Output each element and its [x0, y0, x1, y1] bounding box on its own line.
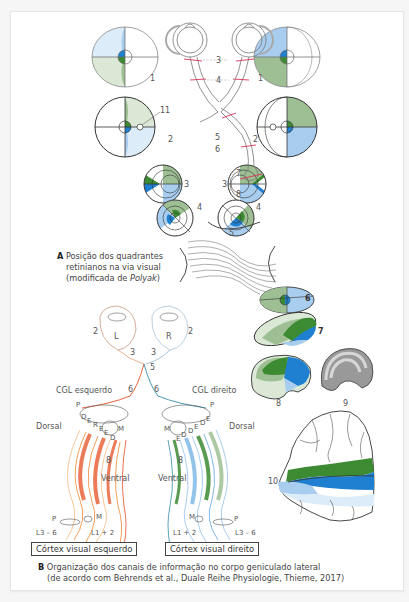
field-8-lgn: [251, 355, 310, 399]
panel-b-letter: B: [38, 562, 44, 572]
svg-text:6: 6: [215, 145, 220, 154]
svg-text:M: M: [96, 513, 102, 521]
svg-text:M: M: [164, 425, 170, 433]
svg-text:P: P: [76, 401, 80, 409]
svg-text:10: 10: [268, 477, 278, 486]
field-1-right: [254, 27, 320, 87]
svg-text:P: P: [52, 515, 56, 523]
svg-text:7: 7: [236, 169, 241, 178]
field-10-occipital-cortex: [278, 411, 374, 521]
svg-text:E: E: [99, 425, 103, 433]
field-1-left: [92, 27, 158, 87]
cortex-layer-markers: [60, 516, 233, 525]
svg-text:4: 4: [256, 203, 261, 212]
right-visual-cortex-box: Córtex visual direito: [165, 542, 259, 556]
svg-text:3: 3: [130, 348, 135, 357]
svg-text:D: D: [200, 419, 205, 427]
field-4-right: [218, 200, 255, 239]
svg-text:D: D: [81, 413, 86, 421]
panel-b-caption-line1: Organização dos canais de informação no …: [47, 562, 320, 572]
svg-text:6: 6: [128, 385, 133, 394]
svg-text:1: 1: [258, 74, 263, 83]
field-2-left: [95, 97, 160, 157]
svg-text:E: E: [176, 435, 180, 443]
svg-text:R: R: [166, 332, 172, 341]
field-9-lgn-layers: [321, 349, 373, 391]
panel-a-caption-line2: retinianos na via visual: [57, 262, 163, 273]
svg-text:4: 4: [197, 203, 202, 212]
svg-text:3: 3: [184, 180, 189, 189]
panel-b-caption: B Organização dos canais de informação n…: [38, 562, 344, 584]
svg-text:3: 3: [151, 348, 156, 357]
svg-text:3: 3: [216, 56, 221, 65]
svg-text:9: 9: [343, 399, 348, 408]
svg-text:4: 4: [216, 76, 221, 85]
panel-b-caption-line2: (de acordo com Behrends et al., Duale Re…: [38, 573, 344, 584]
svg-text:6: 6: [305, 294, 311, 303]
svg-text:1: 1: [150, 74, 155, 83]
svg-text:8: 8: [276, 399, 281, 408]
svg-text:2: 2: [93, 327, 98, 336]
svg-text:E: E: [206, 415, 210, 423]
svg-text:11: 11: [160, 106, 170, 115]
svg-text:D: D: [188, 427, 193, 435]
svg-text:CGL direito: CGL direito: [192, 386, 236, 395]
svg-text:L3 – 6: L3 – 6: [235, 529, 256, 537]
svg-text:8: 8: [178, 456, 183, 465]
svg-text:5: 5: [229, 229, 234, 238]
svg-text:L: L: [114, 332, 119, 341]
panel-a-caption: A Posição dos quadrantes retinianos na v…: [57, 251, 163, 284]
svg-text:6: 6: [154, 385, 159, 394]
svg-text:L3 – 6: L3 – 6: [36, 529, 57, 537]
svg-text:Ventral: Ventral: [101, 474, 129, 483]
panel-a-letter: A: [57, 251, 63, 261]
svg-text:8: 8: [236, 190, 241, 199]
field-4-left: [157, 200, 193, 236]
svg-text:Dorsal: Dorsal: [229, 422, 255, 431]
svg-text:2: 2: [168, 135, 173, 144]
field-2-right: [257, 97, 317, 157]
panel-a-caption-line1: Posição dos quadrantes: [66, 251, 163, 261]
svg-text:8: 8: [106, 456, 111, 465]
panel-a-caption-line3: (modificada de Polyak): [57, 273, 163, 284]
svg-text:Dorsal: Dorsal: [36, 422, 62, 431]
svg-text:3: 3: [222, 180, 227, 189]
svg-text:5: 5: [215, 133, 220, 142]
svg-text:CGL esquerdo: CGL esquerdo: [56, 386, 112, 395]
svg-text:7: 7: [318, 327, 324, 336]
svg-text:D: D: [110, 434, 115, 442]
svg-text:D: D: [181, 431, 186, 439]
svg-text:2: 2: [253, 135, 258, 144]
figure-graphics: 1 1 11 2 2 3 3 4 4 3 4 5 6 7 8 5 6 7 8 9…: [0, 0, 409, 602]
svg-text:P: P: [210, 401, 214, 409]
svg-text:E: E: [87, 417, 91, 425]
svg-text:M: M: [189, 513, 195, 521]
svg-text:5: 5: [150, 363, 155, 372]
panel-b-labels: 2 2 L R 3 3 5 6 6 CGL esquerdo CGL direi…: [36, 327, 256, 537]
field-3-left: [144, 165, 182, 203]
svg-text:M: M: [118, 425, 124, 433]
svg-text:L1 + 2: L1 + 2: [173, 529, 196, 537]
svg-text:L1 + 2: L1 + 2: [91, 529, 114, 537]
pathway-markers: [184, 59, 262, 179]
svg-text:P: P: [234, 515, 238, 523]
svg-text:E: E: [104, 429, 108, 437]
svg-text:E: E: [194, 423, 198, 431]
left-visual-cortex-box: Córtex visual esquerdo: [31, 542, 137, 556]
svg-text:2: 2: [188, 327, 193, 336]
svg-text:R: R: [93, 421, 98, 429]
svg-text:Ventral: Ventral: [158, 474, 186, 483]
